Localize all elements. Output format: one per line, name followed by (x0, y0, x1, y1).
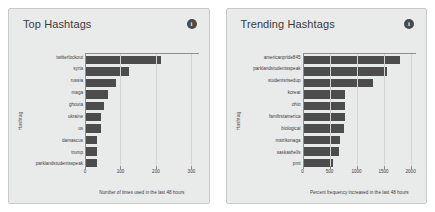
bar[interactable] (85, 102, 104, 110)
y-axis-tick-label: twitterlockout (17, 55, 83, 61)
bar-row[interactable] (85, 113, 199, 121)
gridline (411, 54, 412, 169)
gridline (303, 54, 304, 169)
bar[interactable] (85, 136, 97, 144)
y-axis-tick-label: damascus (17, 138, 83, 144)
gridline (191, 54, 192, 169)
bar[interactable] (85, 124, 101, 132)
y-axis-tick-labels-left: twitterlockout syria russia maga ghouta … (17, 53, 83, 169)
card-header-trending-hashtags: Trending Hashtags i (227, 9, 427, 39)
x-axis-tick-label: 200 (152, 169, 160, 174)
bar-row[interactable] (303, 136, 417, 144)
bar[interactable] (303, 147, 340, 155)
y-axis-tick-label: trump (17, 150, 83, 156)
x-axis-title: Percent frequency increased in the last … (303, 190, 417, 195)
card-top-hashtags: Top Hashtags i Hashtag twitterlockout sy… (8, 8, 210, 204)
bar-row[interactable] (85, 159, 199, 167)
bar-row[interactable] (85, 147, 199, 155)
bar-row[interactable] (85, 136, 199, 144)
bar[interactable] (85, 90, 108, 98)
y-axis-tick-label: pmt (235, 161, 301, 167)
gridline (384, 54, 385, 169)
gridline (330, 54, 331, 169)
y-axis-tick-label: biological (235, 126, 301, 132)
y-axis-tick-label: saskashells (235, 150, 301, 156)
bar[interactable] (303, 56, 400, 64)
bar[interactable] (85, 113, 101, 121)
bar-row[interactable] (303, 159, 417, 167)
y-axis-tick-label: maga (17, 90, 83, 96)
y-axis-tick-label: koreat (235, 90, 301, 96)
y-axis-tick-label: ghouta (17, 102, 83, 108)
y-axis-tick-label: syria (17, 66, 83, 72)
bar-plot-right (303, 53, 417, 169)
bar-row[interactable] (303, 90, 417, 98)
bar-row[interactable] (303, 102, 417, 110)
x-axis-tick-label: 0 (84, 169, 87, 174)
x-axis-title: Number of times used in the last 48 hour… (85, 190, 199, 195)
bar[interactable] (85, 67, 129, 75)
bar-row[interactable] (303, 113, 417, 121)
gridline (85, 54, 86, 169)
x-axis-tick-label: 100 (117, 169, 125, 174)
plot-area-trending-hashtags: Hashtag americanpride845 parklandstudent… (227, 39, 427, 203)
bar-row[interactable] (303, 56, 417, 64)
panel-trending-hashtags: Trending Hashtags i Hashtag americanprid… (218, 0, 435, 212)
bar-plot-left (85, 53, 199, 169)
x-axis-right: 0500100015002000 (303, 169, 417, 181)
bar-row[interactable] (303, 124, 417, 132)
y-axis-tick-label: famfirstamerica (235, 114, 301, 120)
panel-top-hashtags: Top Hashtags i Hashtag twitterlockout sy… (0, 0, 218, 212)
bar[interactable] (303, 136, 340, 144)
plot-area-top-hashtags: Hashtag twitterlockout syria russia maga… (9, 39, 209, 203)
info-icon[interactable]: i (187, 19, 197, 29)
y-axis-tick-label: parklandstudentsspeak (235, 66, 301, 72)
y-axis-tick-label: americanpride845 (235, 55, 301, 61)
bar[interactable] (303, 79, 373, 87)
bar[interactable] (85, 79, 116, 87)
y-axis-tick-label: us (17, 126, 83, 132)
dashboard-root: Top Hashtags i Hashtag twitterlockout sy… (0, 0, 435, 212)
card-header-top-hashtags: Top Hashtags i (9, 9, 209, 39)
bar[interactable] (85, 159, 97, 167)
bar[interactable] (85, 56, 161, 64)
y-axis-tick-label: parklandstudentsspeak (17, 161, 83, 167)
bar[interactable] (303, 113, 345, 121)
x-axis-tick-label: 300 (188, 169, 196, 174)
y-axis-tick-label: mstrikonaga (235, 138, 301, 144)
bar-row[interactable] (85, 124, 199, 132)
bar-row[interactable] (85, 90, 199, 98)
y-axis-tick-label: ohio (235, 102, 301, 108)
x-axis-left: 0100200300 (85, 169, 199, 181)
x-axis-tick-label: 2000 (405, 169, 415, 174)
y-axis-tick-label: ukraine (17, 114, 83, 120)
y-axis-tick-label: russia (17, 78, 83, 84)
x-axis-tick-label: 500 (326, 169, 334, 174)
page-title: Top Hashtags (23, 18, 91, 30)
bar[interactable] (85, 147, 97, 155)
bar-row[interactable] (85, 102, 199, 110)
bar[interactable] (303, 90, 345, 98)
y-axis-tick-labels-right: americanpride845 parklandstudentsspeak s… (235, 53, 301, 169)
gridline (120, 54, 121, 169)
bar[interactable] (303, 67, 387, 75)
gridline (156, 54, 157, 169)
bar-row[interactable] (303, 67, 417, 75)
info-icon[interactable]: i (404, 19, 414, 29)
bar-row[interactable] (85, 67, 199, 75)
y-axis-tick-label: studentsrisedup (235, 78, 301, 84)
bar-series-left (85, 54, 199, 169)
bar-row[interactable] (303, 79, 417, 87)
x-axis-tick-label: 1500 (378, 169, 388, 174)
bar-series-right (303, 54, 417, 169)
bar[interactable] (303, 124, 345, 132)
bar-row[interactable] (85, 79, 199, 87)
x-axis-tick-label: 1000 (351, 169, 361, 174)
bar[interactable] (303, 159, 333, 167)
x-axis-tick-label: 0 (301, 169, 304, 174)
bar-row[interactable] (85, 56, 199, 64)
gridline (357, 54, 358, 169)
bar-row[interactable] (303, 147, 417, 155)
bar[interactable] (303, 102, 345, 110)
card-trending-hashtags: Trending Hashtags i Hashtag americanprid… (226, 8, 428, 204)
